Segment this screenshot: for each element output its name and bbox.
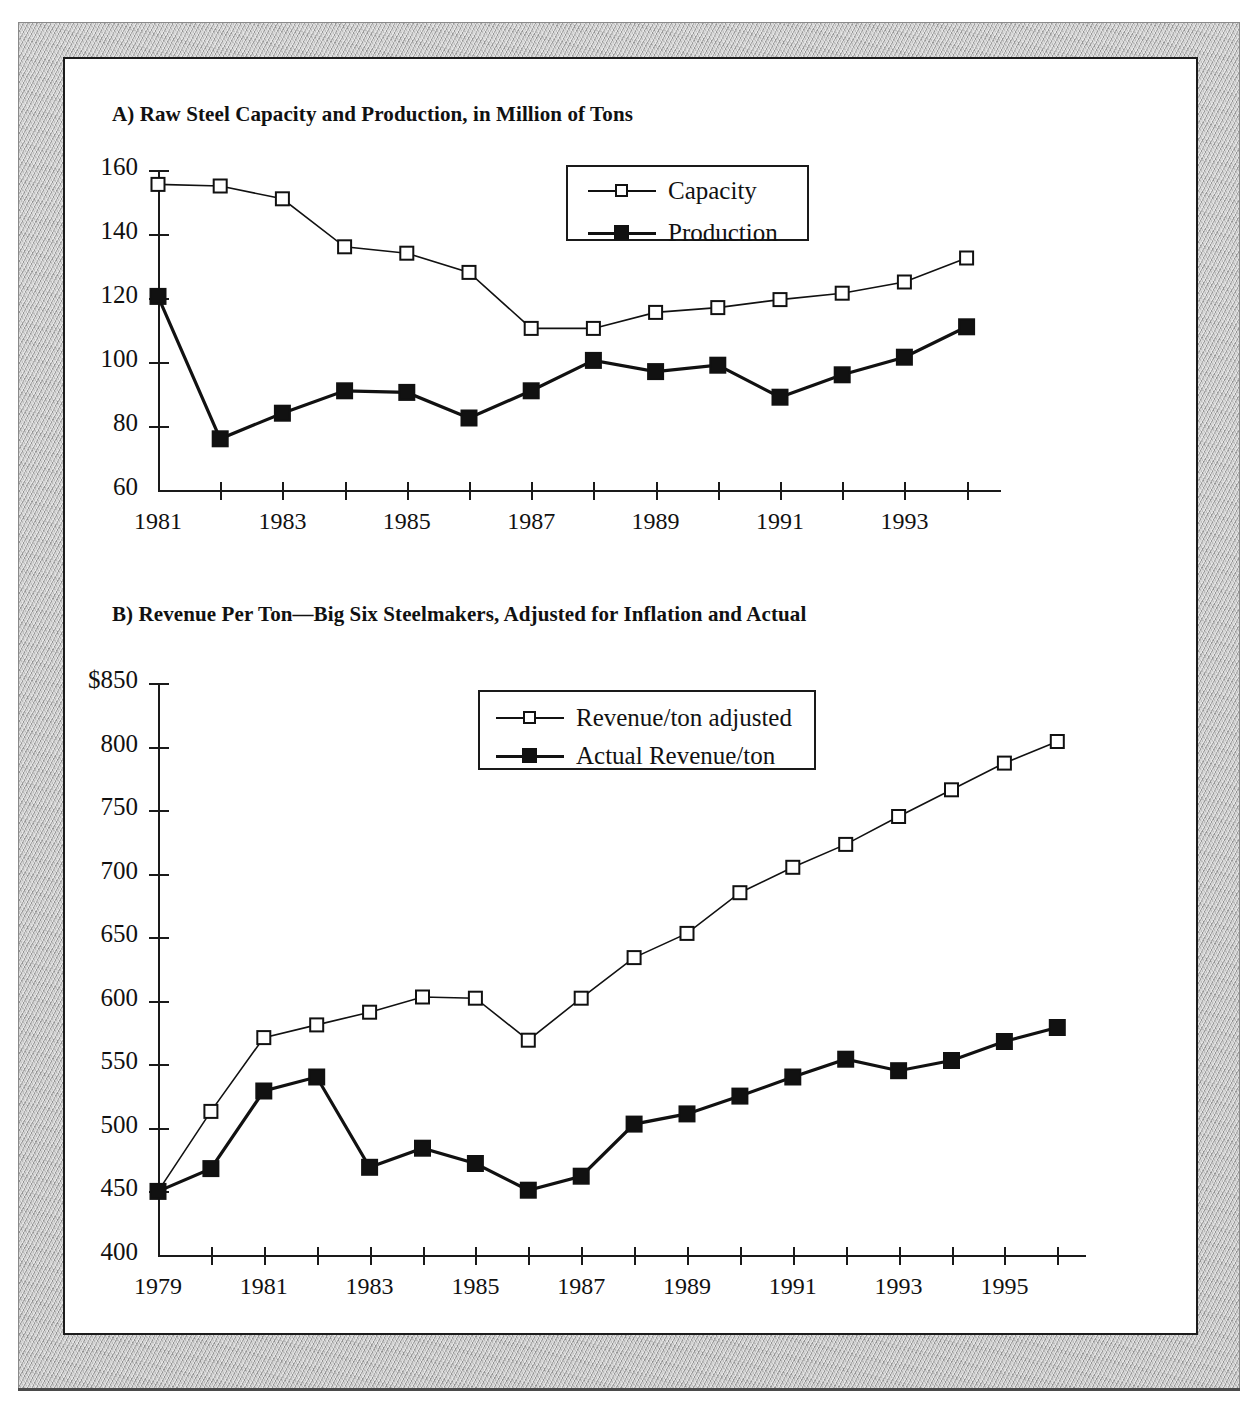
data-point-marker xyxy=(415,1141,430,1156)
legend-marker xyxy=(523,711,536,724)
data-point-marker xyxy=(204,1105,217,1118)
data-point-marker xyxy=(681,927,694,940)
data-point-marker xyxy=(522,1034,535,1047)
data-point-marker xyxy=(468,1156,483,1171)
data-point-marker xyxy=(786,861,799,874)
legend-label: Revenue/ton adjusted xyxy=(564,704,792,732)
data-point-marker xyxy=(785,1070,800,1085)
data-point-marker xyxy=(1051,735,1064,748)
legend-label: Actual Revenue/ton xyxy=(564,742,775,770)
data-point-marker xyxy=(998,757,1011,770)
legend-marker xyxy=(522,748,537,763)
data-point-marker xyxy=(203,1161,218,1176)
data-point-marker xyxy=(680,1106,695,1121)
data-point-marker xyxy=(945,783,958,796)
data-point-marker xyxy=(838,1052,853,1067)
figure-page: A) Raw Steel Capacity and Production, in… xyxy=(0,0,1258,1418)
legend-item-revenue-ton-adjusted: Revenue/ton adjusted xyxy=(496,704,792,732)
data-point-marker xyxy=(521,1183,536,1198)
data-point-marker xyxy=(733,886,746,899)
data-point-marker xyxy=(574,1169,589,1184)
data-point-marker xyxy=(732,1089,747,1104)
data-point-marker xyxy=(310,1018,323,1031)
legend-swatch-open-square-icon xyxy=(496,708,564,728)
series-line-revenue-ton-adjusted xyxy=(158,742,1057,1192)
data-point-marker xyxy=(256,1084,271,1099)
legend-item-actual-revenue-ton: Actual Revenue/ton xyxy=(496,742,775,770)
data-point-marker xyxy=(944,1053,959,1068)
data-point-marker xyxy=(892,810,905,823)
data-point-marker xyxy=(1050,1020,1065,1035)
data-point-marker xyxy=(469,992,482,1005)
data-point-marker xyxy=(627,1117,642,1132)
data-point-marker xyxy=(257,1031,270,1044)
legend-swatch-filled-square-icon xyxy=(496,746,564,766)
series-line-actual-revenue-ton xyxy=(158,1028,1057,1192)
data-point-marker xyxy=(309,1070,324,1085)
data-point-marker xyxy=(151,1184,166,1199)
data-point-marker xyxy=(839,838,852,851)
data-point-marker xyxy=(891,1063,906,1078)
data-point-marker xyxy=(363,1006,376,1019)
data-point-marker xyxy=(362,1160,377,1175)
data-point-marker xyxy=(575,992,588,1005)
data-point-marker xyxy=(997,1034,1012,1049)
data-point-marker xyxy=(416,991,429,1004)
data-point-marker xyxy=(628,951,641,964)
chart-b-plot: 400450500550600650700750800$850197919811… xyxy=(0,0,1258,1418)
